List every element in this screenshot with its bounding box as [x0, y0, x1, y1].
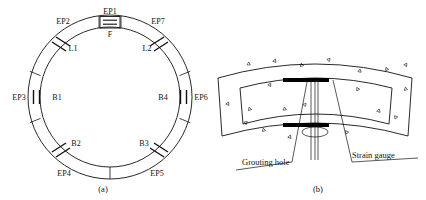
measurement-label-EP5: EP5 — [150, 169, 163, 178]
speckle-triangle-icon — [273, 58, 277, 62]
speckle-triangle-icon — [377, 109, 381, 113]
leader-line-grouting — [292, 82, 307, 162]
segment-inner-outline — [240, 78, 392, 124]
speckle-triangle-icon — [393, 115, 398, 119]
speckle-triangle-icon — [226, 101, 230, 105]
key-segment-outline — [100, 17, 120, 29]
segment-label-B3: B3 — [139, 139, 148, 148]
strain-gauge-bar-lower — [283, 123, 329, 127]
segment-label-L1: L1 — [69, 44, 78, 53]
segment-detail-diagram: Grouting hole Strain gauge (b) — [218, 57, 418, 194]
speckle-triangle-icon — [404, 87, 408, 91]
measurement-label-EP7: EP7 — [151, 17, 164, 26]
ep7-marker-icon — [150, 37, 168, 51]
strain-gauge-bar-upper — [283, 78, 329, 82]
speckle-triangle-icon — [288, 134, 292, 138]
speckle-triangle-icon — [384, 67, 388, 71]
key-segment-F — [100, 17, 120, 29]
speckle-triangle-icon — [268, 82, 272, 86]
measurement-label-EP4: EP4 — [57, 169, 70, 178]
leader-line-strain — [333, 80, 352, 162]
speckle-triangle-icon — [358, 69, 362, 73]
speckle-triangle-icon — [303, 102, 308, 107]
grouting-hole-channel — [311, 80, 318, 160]
figure-svg: F L1 L2 B1 B4 B2 B3 EP1 EP2 EP7 EP3 EP6 … — [0, 0, 426, 200]
ring-diagram: F L1 L2 B1 B4 B2 B3 EP1 EP2 EP7 EP3 EP6 … — [12, 7, 207, 194]
ep2-marker-icon — [52, 37, 70, 51]
ep5-marker-icon — [150, 143, 168, 157]
measurement-label-EP1: EP1 — [103, 7, 116, 16]
speckle-triangle-icon — [247, 62, 250, 65]
measurement-label-EP6: EP6 — [194, 93, 207, 102]
speckle-triangle-icon — [262, 128, 266, 132]
annotation-grouting-hole: Grouting hole — [242, 157, 290, 167]
segment-label-F: F — [108, 30, 113, 39]
panel-caption-a: (a) — [98, 184, 108, 194]
ep4-marker-icon — [52, 143, 70, 157]
speckle-triangle-icon — [283, 107, 287, 110]
speckle-triangle-icon — [355, 87, 359, 91]
ep6-marker-icon — [181, 90, 187, 104]
speckle-triangle-icon — [327, 57, 332, 61]
speckle-triangle-icon — [247, 107, 251, 111]
measurement-label-EP2: EP2 — [56, 17, 69, 26]
speckle-triangle-icon — [404, 62, 409, 66]
ep3-marker-icon — [34, 90, 40, 104]
panel-caption-b: (b) — [313, 184, 323, 194]
segment-label-B4: B4 — [158, 93, 167, 102]
measurement-label-EP3: EP3 — [12, 93, 25, 102]
segment-label-B2: B2 — [71, 139, 80, 148]
annotation-strain-gauge: Strain gauge — [352, 150, 395, 160]
segment-label-L2: L2 — [143, 44, 152, 53]
segment-label-B1: B1 — [52, 93, 61, 102]
figure-container: F L1 L2 B1 B4 B2 B3 EP1 EP2 EP7 EP3 EP6 … — [0, 0, 426, 200]
